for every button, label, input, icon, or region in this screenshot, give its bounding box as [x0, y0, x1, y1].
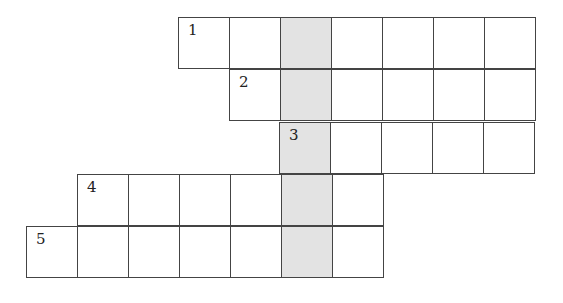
clue-number: 5: [36, 230, 46, 248]
grid-cell[interactable]: [433, 69, 485, 121]
grid-cell[interactable]: [381, 122, 433, 174]
clue-number: 3: [289, 126, 299, 144]
grid-cell[interactable]: [332, 226, 384, 278]
grid-cell[interactable]: [179, 174, 231, 226]
grid-cell[interactable]: [332, 174, 384, 226]
grid-cell[interactable]: [230, 174, 282, 226]
grid-cell[interactable]: [483, 122, 535, 174]
grid-cell[interactable]: [331, 69, 383, 121]
grid-cell[interactable]: [382, 69, 434, 121]
grid-cell[interactable]: [128, 226, 180, 278]
clue-number: 4: [87, 178, 97, 196]
grid-cell[interactable]: 3: [279, 122, 331, 174]
grid-cell[interactable]: [432, 122, 484, 174]
grid-cell[interactable]: [179, 226, 231, 278]
clue-number: 2: [239, 73, 249, 91]
grid-cell[interactable]: [484, 17, 536, 69]
grid-cell[interactable]: [281, 226, 333, 278]
grid-cell[interactable]: [433, 17, 485, 69]
grid-cell[interactable]: [128, 174, 180, 226]
grid-cell[interactable]: [331, 17, 383, 69]
grid-cell[interactable]: [230, 226, 282, 278]
grid-cell[interactable]: 5: [26, 226, 78, 278]
grid-cell[interactable]: [77, 226, 129, 278]
clue-number: 1: [188, 21, 198, 39]
grid-cell[interactable]: [280, 17, 332, 69]
grid-cell[interactable]: 1: [178, 17, 230, 69]
grid-cell[interactable]: [229, 17, 281, 69]
grid-cell[interactable]: [280, 69, 332, 121]
grid-cell[interactable]: [484, 69, 536, 121]
grid-cell[interactable]: [382, 17, 434, 69]
grid-cell[interactable]: [281, 174, 333, 226]
grid-cell[interactable]: [330, 122, 382, 174]
grid-cell[interactable]: 4: [77, 174, 129, 226]
grid-cell[interactable]: 2: [229, 69, 281, 121]
